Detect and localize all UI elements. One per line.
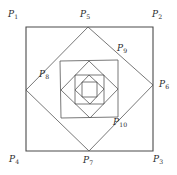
label-p7-subscript: 7	[89, 159, 93, 166]
square-1-outer	[26, 27, 153, 151]
label-p5: P5	[80, 10, 90, 19]
label-p2: P2	[152, 10, 162, 19]
square-7	[82, 82, 97, 97]
label-p6: P6	[159, 80, 169, 89]
label-p1: P1	[8, 10, 18, 19]
label-p2-subscript: 2	[158, 13, 162, 20]
label-p4: P4	[9, 155, 19, 164]
label-p4-subscript: 4	[15, 158, 19, 165]
square-3	[60, 60, 118, 118]
label-p3: P3	[153, 155, 163, 164]
square-6	[75, 75, 104, 104]
label-p10: P10	[113, 118, 127, 127]
label-p8: P8	[39, 70, 49, 79]
label-p9: P9	[117, 44, 127, 53]
label-p1-subscript: 1	[14, 13, 18, 20]
square-5	[75, 75, 104, 104]
geometry-figure: P1P2P3P4P5P6P7P8P9P10	[0, 0, 177, 175]
label-p6-subscript: 6	[165, 83, 169, 90]
label-p7: P7	[83, 156, 93, 165]
label-p10-subscript: 10	[119, 121, 127, 128]
label-p9-subscript: 9	[123, 47, 127, 54]
label-p3-subscript: 3	[159, 158, 163, 165]
label-p8-subscript: 8	[45, 73, 49, 80]
square-4	[61, 61, 118, 118]
square-2	[26, 27, 153, 151]
nested-squares-diagram	[0, 0, 177, 175]
label-p5-subscript: 5	[86, 13, 90, 20]
